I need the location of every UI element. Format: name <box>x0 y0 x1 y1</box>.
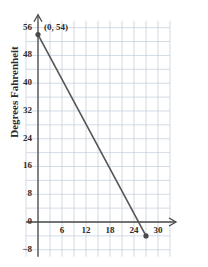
y-tick-label: 40 <box>4 77 32 87</box>
y-tick-label: 24 <box>4 133 32 143</box>
point-annotation-label: (0, 54) <box>44 22 68 32</box>
x-tick-label: 24 <box>122 225 146 235</box>
y-tick-label: 16 <box>4 160 32 170</box>
x-tick-label: 18 <box>98 225 122 235</box>
x-tick-label: 12 <box>74 225 98 235</box>
y-tick-label: −8 <box>4 244 32 254</box>
x-tick-label: 30 <box>146 225 170 235</box>
temperature-line-chart: Degrees Fahrenheit 56484032241680−8 6121… <box>0 0 208 267</box>
y-tick-label: 56 <box>4 22 32 32</box>
y-tick-label: 0 <box>4 216 32 226</box>
y-tick-label: 32 <box>4 105 32 115</box>
x-tick-label: 6 <box>50 225 74 235</box>
y-tick-label: 8 <box>4 188 32 198</box>
y-tick-label: 48 <box>4 49 32 59</box>
